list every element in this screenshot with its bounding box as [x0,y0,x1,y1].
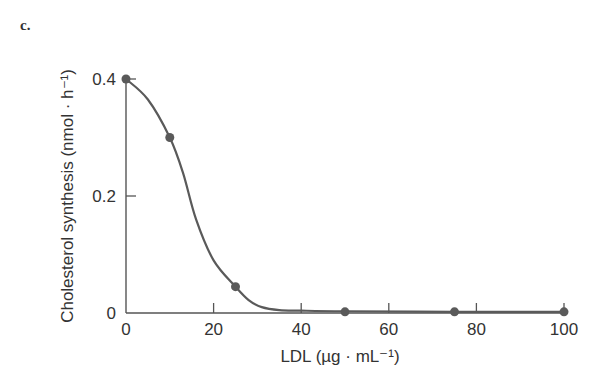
x-tick-label: 40 [292,320,311,339]
data-point [231,282,240,291]
chart: 02040608010000.20.4 LDL (µg · mL⁻¹) Chol… [0,0,609,392]
axes [126,79,564,313]
data-point [450,307,459,316]
x-tick-label: 0 [121,320,130,339]
data-curve [126,79,564,312]
data-point [560,307,569,316]
y-axis-title: Cholesterol synthesis (nmol · h⁻¹) [58,69,77,323]
y-tick-label: 0 [107,304,116,323]
x-tick-label: 20 [204,320,223,339]
x-tick-label: 100 [550,320,578,339]
ticks: 02040608010000.20.4 [92,70,578,339]
data-point [165,133,174,142]
data-point [122,75,131,84]
y-tick-label: 0.4 [92,70,116,89]
y-tick-label: 0.2 [92,187,116,206]
x-axis-title: LDL (µg · mL⁻¹) [280,347,399,366]
x-tick-label: 80 [467,320,486,339]
data-point [341,307,350,316]
x-tick-label: 60 [379,320,398,339]
